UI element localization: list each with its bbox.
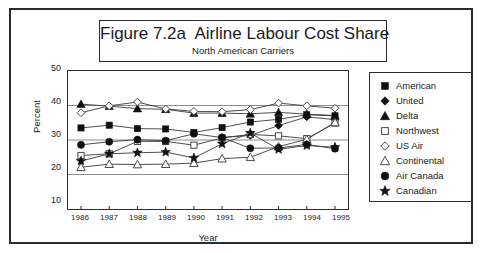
chart-title: Figure 7.2a Airline Labour Cost Share bbox=[100, 23, 386, 45]
open-diamond-icon bbox=[377, 139, 393, 153]
legend-item-northwest[interactable]: Northwest bbox=[370, 123, 471, 138]
data-point bbox=[106, 138, 113, 145]
filled-triangle-icon bbox=[377, 109, 393, 123]
y-tick-label: 40 bbox=[35, 96, 61, 106]
filled-circle-icon bbox=[377, 169, 393, 183]
data-point bbox=[247, 119, 253, 125]
data-point bbox=[77, 109, 85, 117]
data-point bbox=[246, 106, 254, 114]
legend-label: Northwest bbox=[396, 125, 439, 136]
filled-star-icon bbox=[377, 184, 393, 198]
legend-item-canadian[interactable]: Canadian bbox=[370, 183, 471, 198]
data-point bbox=[163, 126, 169, 132]
figure-outer-frame: Figure 7.2a Airline Labour Cost Share No… bbox=[9, 8, 473, 244]
title-box: Figure 7.2a Airline Labour Cost Share No… bbox=[99, 20, 387, 62]
open-square-icon bbox=[377, 124, 393, 138]
data-point bbox=[106, 122, 112, 128]
data-point bbox=[162, 137, 169, 144]
legend-label: Delta bbox=[396, 110, 418, 121]
legend-label: Continental bbox=[396, 155, 444, 166]
chart-canvas bbox=[68, 71, 348, 209]
data-point bbox=[275, 133, 281, 139]
data-point bbox=[274, 108, 282, 116]
legend-label: Canadian bbox=[396, 185, 437, 196]
x-tick-label: 1995 bbox=[323, 213, 359, 222]
data-point bbox=[134, 136, 141, 143]
legend-item-continental[interactable]: Continental bbox=[370, 153, 471, 168]
legend-label: American bbox=[396, 80, 436, 91]
data-point bbox=[105, 160, 113, 168]
data-point bbox=[161, 147, 170, 156]
open-triangle-icon bbox=[377, 154, 393, 168]
data-point bbox=[247, 145, 254, 152]
data-point bbox=[77, 100, 85, 108]
data-point bbox=[303, 102, 311, 110]
legend-item-delta[interactable]: Delta bbox=[370, 108, 471, 123]
data-point bbox=[191, 142, 197, 148]
data-point bbox=[133, 148, 142, 157]
legend-label: US Air bbox=[396, 140, 423, 151]
legend-item-air-canada[interactable]: Air Canada bbox=[370, 168, 471, 183]
legend-label: Air Canada bbox=[396, 170, 444, 181]
data-point bbox=[134, 98, 142, 106]
legend-item-us-air[interactable]: US Air bbox=[370, 138, 471, 153]
x-axis-label: Year bbox=[67, 232, 349, 243]
legend-label: United bbox=[396, 95, 423, 106]
data-point bbox=[219, 124, 225, 130]
legend-item-american[interactable]: American bbox=[370, 78, 471, 93]
data-point bbox=[134, 126, 140, 132]
legend: AmericanUnitedDeltaNorthwestUS AirContin… bbox=[369, 72, 472, 202]
data-point bbox=[78, 125, 84, 131]
filled-diamond-icon bbox=[377, 94, 393, 108]
data-point bbox=[190, 130, 197, 137]
chart-subtitle: North American Carriers bbox=[100, 45, 386, 57]
legend-item-united[interactable]: United bbox=[370, 93, 471, 108]
data-point bbox=[246, 153, 254, 161]
plot-area bbox=[67, 70, 349, 210]
y-tick-label: 30 bbox=[35, 129, 61, 139]
y-axis-label: Percent bbox=[31, 82, 42, 152]
y-tick-label: 20 bbox=[35, 162, 61, 172]
data-point bbox=[77, 141, 84, 148]
y-tick-label: 50 bbox=[35, 63, 61, 73]
filled-square-icon bbox=[377, 79, 393, 93]
data-point bbox=[275, 122, 283, 130]
y-tick-label: 10 bbox=[35, 195, 61, 205]
